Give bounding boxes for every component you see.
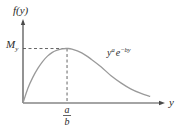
x-axis-arrow (159, 101, 165, 105)
x-axis-label: y (168, 96, 174, 108)
peak-y-label: My (5, 38, 19, 53)
peak-x-label-numerator: a (65, 104, 70, 115)
y-axis-arrow (21, 19, 25, 25)
y-axis-label: f(y) (13, 4, 29, 17)
series-line (23, 49, 150, 103)
peak-x-label-denominator: b (65, 116, 70, 127)
function-label: yae−by (106, 46, 131, 58)
chart-svg: f(y) y My a b yae−by (0, 0, 181, 129)
